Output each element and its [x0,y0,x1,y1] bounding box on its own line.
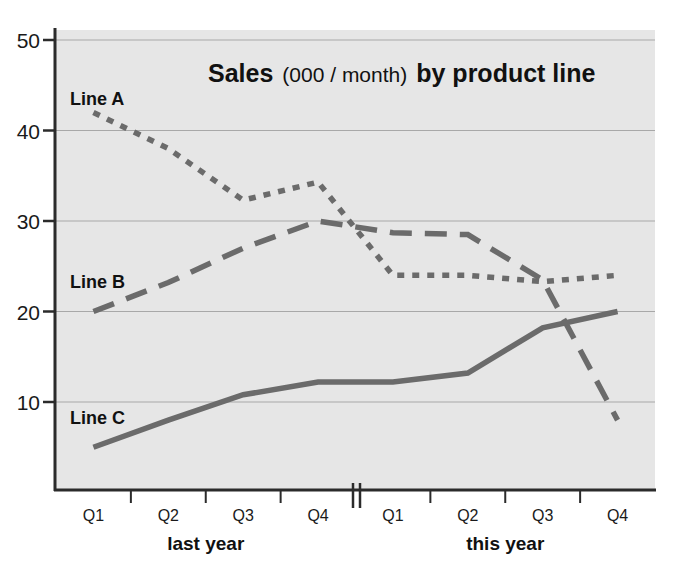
chart-title-paren: (000 / month) [282,63,407,86]
x-tick-label: Q4 [307,507,328,524]
series-label-line-c: Line C [70,408,125,428]
series-label-line-a: Line A [70,89,124,109]
x-axis-ticks [131,490,580,503]
chart-title-trail: by product line [416,59,595,87]
x-group-label: this year [466,533,545,554]
y-tick-label: 30 [17,210,40,233]
y-tick-label: 50 [17,29,40,52]
y-tick-label: 40 [17,120,40,143]
x-tick-label: Q3 [532,507,553,524]
series-label-line-b: Line B [70,272,125,292]
chart-figure: 1020304050 Q1Q2Q3Q4Q1Q2Q3Q4 last yearthi… [0,0,677,562]
plot-background [56,30,655,490]
x-tick-label: Q3 [233,507,254,524]
x-group-label: last year [167,533,245,554]
y-axis-ticks: 1020304050 [17,29,56,414]
x-axis-category-labels: Q1Q2Q3Q4Q1Q2Q3Q4 [83,507,629,524]
line-chart-canvas: 1020304050 Q1Q2Q3Q4Q1Q2Q3Q4 last yearthi… [0,0,677,562]
x-tick-label: Q1 [83,507,104,524]
x-tick-label: Q4 [607,507,628,524]
x-tick-label: Q2 [158,507,179,524]
y-tick-label: 10 [17,391,40,414]
y-tick-label: 20 [17,301,40,324]
x-tick-label: Q2 [457,507,478,524]
chart-title-lead: Sales [208,59,273,87]
x-axis-group-labels: last yearthis year [167,533,545,554]
x-tick-label: Q1 [382,507,403,524]
chart-title: Sales(000 / month)by product line [208,59,596,87]
